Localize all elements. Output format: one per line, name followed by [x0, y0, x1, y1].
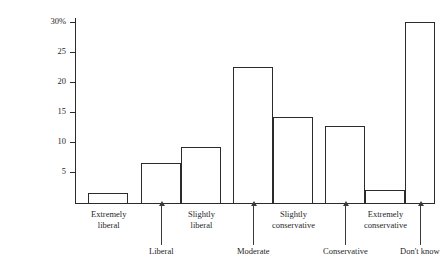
y-tick-10: 10 — [70, 142, 76, 143]
x-label-line-1: Slightly — [188, 209, 215, 220]
x-label-extremely-liberal: Extremelyliberal — [91, 209, 126, 230]
bar-chart-figure: Percent of Public 51015202530% Extremely… — [0, 0, 443, 267]
x-label-conservative: Conservative — [323, 246, 368, 257]
bar — [325, 126, 365, 203]
x-label-slightly-liberal: Slightlyliberal — [188, 209, 215, 230]
x-label-line-1: Moderate — [237, 246, 270, 257]
y-tick-5: 5 — [70, 172, 76, 173]
bar — [233, 67, 273, 203]
y-tick-label: 30% — [50, 16, 66, 26]
y-tick-label: 20 — [58, 76, 67, 86]
y-tick-30: 30% — [70, 22, 76, 23]
y-tick-20: 20 — [70, 82, 76, 83]
label-leader-arrow-icon — [161, 205, 162, 245]
x-label-line-1: Don't know — [400, 246, 440, 257]
x-label-line-1: Extremely — [364, 209, 407, 220]
label-leader-arrow-icon — [420, 205, 421, 245]
bar — [141, 163, 181, 203]
x-label-extremely-conservative: Extremelyconservative — [364, 209, 407, 230]
y-tick-label: 25 — [58, 46, 67, 56]
bar — [365, 190, 405, 203]
y-tick-label: 10 — [58, 136, 67, 146]
label-leader-arrow-icon — [345, 205, 346, 245]
y-tick-label: 5 — [62, 166, 66, 176]
y-tick-25: 25 — [70, 52, 76, 53]
x-label-moderate: Moderate — [237, 246, 270, 257]
x-label-line-1: Extremely — [91, 209, 126, 220]
x-label-line-2: liberal — [188, 220, 215, 231]
x-axis-category-labels: ExtremelyliberalLiberalSlightlyliberalMo… — [0, 204, 443, 267]
x-label-liberal: Liberal — [149, 246, 174, 257]
x-label-line-1: Liberal — [149, 246, 174, 257]
x-label-line-1: Conservative — [323, 246, 368, 257]
y-tick-15: 15 — [70, 112, 76, 113]
bar — [273, 117, 313, 203]
bar — [405, 22, 435, 203]
plot-area: 51015202530% — [75, 18, 435, 204]
x-label-don-t-know: Don't know — [400, 246, 440, 257]
x-label-line-2: conservative — [364, 220, 407, 231]
label-leader-arrow-icon — [253, 205, 254, 245]
x-label-line-2: liberal — [91, 220, 126, 231]
x-label-line-2: conservative — [272, 220, 315, 231]
bar — [181, 147, 221, 203]
y-tick-label: 15 — [58, 106, 67, 116]
x-label-line-1: Slightly — [272, 209, 315, 220]
y-axis-line — [75, 18, 76, 204]
bar — [88, 193, 128, 203]
x-label-slightly-conservative: Slightlyconservative — [272, 209, 315, 230]
